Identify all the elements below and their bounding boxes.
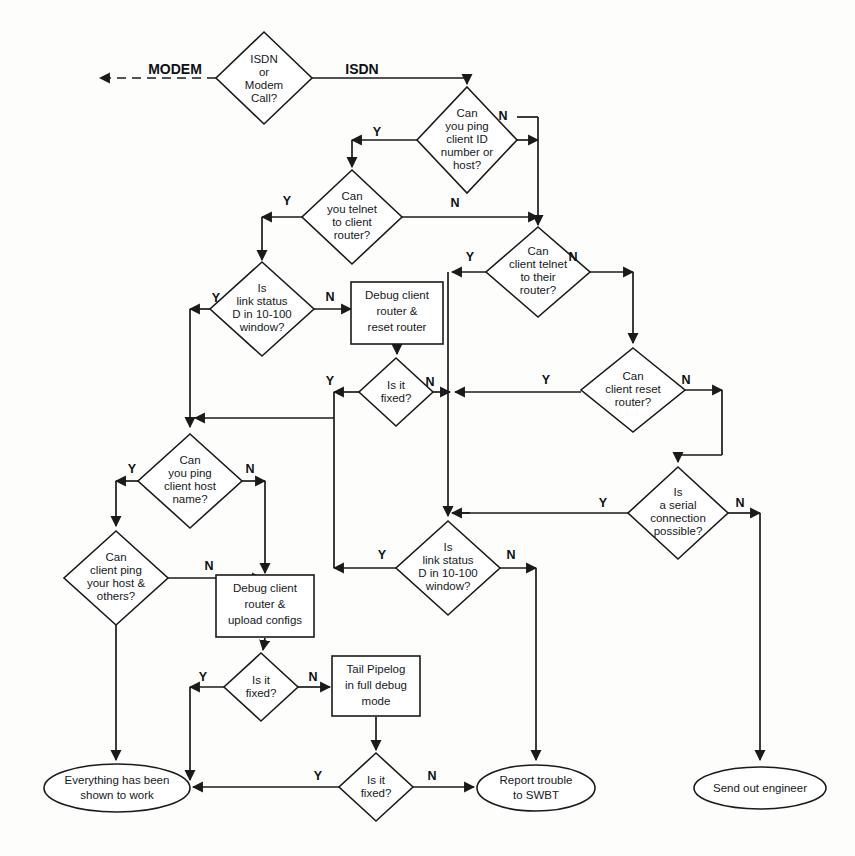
edge-label-ping-client-id-yes: Y <box>373 125 382 139</box>
node-debug-reset-router-line3: reset router <box>368 321 427 333</box>
node-ping-client-id-line5: host? <box>453 159 481 171</box>
node-ping-client-id-line2: you ping <box>445 120 488 132</box>
node-isdn-or-modem-line2: or <box>259 66 269 78</box>
node-ping-client-id-line3: client ID <box>446 133 488 145</box>
edge-debugupload-down <box>263 638 265 650</box>
node-is-it-fixed-1-line2: fixed? <box>381 392 412 404</box>
node-ping-client-host-line4: name? <box>172 493 207 505</box>
node-is-it-fixed-3[interactable]: Is it fixed? <box>339 753 413 821</box>
node-serial-connection[interactable]: Is a serial connection possible? <box>628 467 728 559</box>
node-client-telnet-router-line4: router? <box>520 284 556 296</box>
edge-label-isdn: ISDN <box>345 61 378 77</box>
node-debug-reset-router-line1: Debug client <box>365 289 430 301</box>
node-everything-works-line1: Everything has been <box>65 774 170 786</box>
node-link-status-bottom-line4: window? <box>425 580 471 592</box>
node-link-status-top-line3: D in 10-100 <box>232 308 291 320</box>
node-debug-upload-configs[interactable]: Debug client router & upload configs <box>216 575 314 637</box>
edge-label-link-status-bottom-yes: Y <box>378 548 387 562</box>
node-isdn-or-modem-line3: Modem <box>245 79 283 91</box>
node-client-telnet-router-line2: client telnet <box>509 258 568 270</box>
node-client-telnet-router-line1: Can <box>527 245 548 257</box>
node-send-out-engineer[interactable]: Send out engineer <box>694 767 826 809</box>
edge-label-is-it-fixed-3-yes: Y <box>314 769 323 783</box>
node-serial-connection-line2: a serial <box>659 499 696 511</box>
node-is-it-fixed-1-line1: Is it <box>387 379 406 391</box>
edge-label-link-status-bottom-no: N <box>506 548 515 562</box>
edge-label-client-reset-no: N <box>681 373 690 387</box>
edge-label-is-it-fixed-2-yes: Y <box>199 670 208 684</box>
node-report-trouble[interactable]: Report trouble to SWBT <box>477 765 595 811</box>
node-is-it-fixed-3-line2: fixed? <box>361 787 392 799</box>
edge-label-ping-client-host-yes: Y <box>128 462 137 476</box>
edge-label-ping-client-id-no: N <box>498 109 507 123</box>
node-telnet-client-router-line4: router? <box>334 229 370 241</box>
node-serial-connection-line3: connection <box>650 512 706 524</box>
edge-label-serial-yes: Y <box>599 496 608 510</box>
edge-label-is-it-fixed-1-no: N <box>425 375 434 389</box>
node-ping-client-id-line4: number or <box>441 146 494 158</box>
node-debug-reset-router-line2: router & <box>377 305 418 317</box>
edge-label-telnet-client-router-no: N <box>450 196 459 210</box>
node-client-ping-host-line2: client ping <box>90 564 142 576</box>
node-debug-upload-configs-line2: router & <box>245 598 286 610</box>
node-is-it-fixed-2-line2: fixed? <box>246 687 277 699</box>
edge-label-telnet-client-router-yes: Y <box>283 194 292 208</box>
node-is-it-fixed-3-line1: Is it <box>367 774 386 786</box>
node-ping-client-host-line2: you ping <box>168 467 211 479</box>
node-link-status-bottom-line1: Is <box>444 541 453 553</box>
node-serial-connection-line1: Is <box>674 486 683 498</box>
node-everything-works[interactable]: Everything has been shown to work <box>44 764 190 812</box>
node-tail-pipelog-line1: Tail Pipelog <box>347 663 406 675</box>
node-debug-upload-configs-line1: Debug client <box>233 582 298 594</box>
node-is-it-fixed-2[interactable]: Is it fixed? <box>224 653 298 721</box>
node-link-status-top-line4: window? <box>239 321 285 333</box>
edge-label-is-it-fixed-3-no: N <box>427 769 436 783</box>
edge-label-client-ping-host-no: N <box>204 559 213 573</box>
node-tail-pipelog[interactable]: Tail Pipelog in full debug mode <box>332 656 420 716</box>
node-link-status-top-line2: link status <box>236 295 287 307</box>
node-isdn-or-modem[interactable]: ISDN or Modem Call? <box>216 32 312 124</box>
node-client-ping-host-line4: others? <box>97 590 135 602</box>
edge-clientreset-no-c <box>678 455 722 462</box>
node-everything-works-line2: shown to work <box>80 789 154 801</box>
edge-label-serial-no: N <box>735 496 744 510</box>
node-client-reset-router-line3: router? <box>615 396 651 408</box>
node-link-status-bottom-line2: link status <box>422 554 473 566</box>
node-telnet-client-router-line3: to client <box>332 216 372 228</box>
node-tail-pipelog-line3: mode <box>362 695 391 707</box>
node-ping-client-id-line1: Can <box>456 107 477 119</box>
edge-label-client-telnet-no: N <box>568 250 577 264</box>
node-link-status-bottom[interactable]: Is link status D in 10-100 window? <box>396 521 500 615</box>
edge-label-client-telnet-yes: Y <box>466 250 475 264</box>
node-debug-upload-configs-line3: upload configs <box>228 614 302 626</box>
node-link-status-bottom-line3: D in 10-100 <box>418 567 477 579</box>
edge-label-modem: MODEM <box>148 61 202 77</box>
node-telnet-client-router[interactable]: Can you telnet to client router? <box>302 170 402 264</box>
node-client-reset-router[interactable]: Can client reset router? <box>581 348 685 432</box>
node-client-ping-host-line3: your host & <box>87 577 145 589</box>
edge-label-is-it-fixed-1-yes: Y <box>326 374 335 388</box>
node-report-trouble-line2: to SWBT <box>513 789 559 801</box>
node-debug-reset-router[interactable]: Debug client router & reset router <box>351 282 443 344</box>
edge-isdn <box>312 78 467 84</box>
node-client-reset-router-line1: Can <box>622 370 643 382</box>
node-link-status-top[interactable]: Is link status D in 10-100 window? <box>210 262 314 356</box>
node-client-ping-host-line1: Can <box>105 551 126 563</box>
flowchart-page: ISDN or Modem Call? Can you ping client … <box>0 0 855 856</box>
node-is-it-fixed-1[interactable]: Is it fixed? <box>359 358 433 426</box>
node-isdn-or-modem-line4: Call? <box>251 92 277 104</box>
edge-label-ping-client-host-no: N <box>245 462 254 476</box>
flowchart-canvas: ISDN or Modem Call? Can you ping client … <box>0 0 855 856</box>
node-client-telnet-router[interactable]: Can client telnet to their router? <box>486 227 590 317</box>
node-client-ping-host[interactable]: Can client ping your host & others? <box>64 531 168 625</box>
node-ping-client-id[interactable]: Can you ping client ID number or host? <box>417 87 517 193</box>
node-serial-connection-line4: possible? <box>654 525 703 537</box>
node-client-reset-router-line2: client reset <box>605 383 661 395</box>
node-tail-pipelog-line2: in full debug <box>345 679 407 691</box>
edge-labels: MODEM ISDN Y N Y N Y N Y N Y N Y N Y N Y… <box>128 61 745 784</box>
node-ping-client-host[interactable]: Can you ping client host name? <box>138 434 242 528</box>
edge-label-client-reset-yes: Y <box>542 373 551 387</box>
edge-label-link-status-top-no: N <box>325 290 334 304</box>
node-link-status-top-line1: Is <box>258 282 267 294</box>
edge-label-link-status-top-yes: Y <box>212 291 221 305</box>
